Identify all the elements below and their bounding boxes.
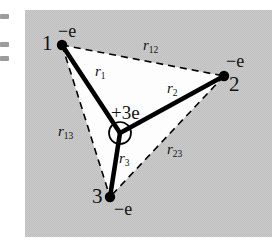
vertex-number-1: 1 <box>42 33 53 54</box>
charge-label-1: −e <box>58 22 76 40</box>
radius-label-r2: r2 <box>167 81 178 96</box>
charge-label-2: −e <box>226 52 244 70</box>
charge-label-3: −e <box>114 200 132 218</box>
electron-dot-1 <box>57 40 67 50</box>
electron-dot-2 <box>219 71 229 81</box>
separation-label-r13: r13 <box>58 124 73 139</box>
radius-label-r1: r1 <box>95 64 106 79</box>
nucleus-charge-label: +3e <box>111 103 140 122</box>
vertex-number-3: 3 <box>92 186 103 207</box>
radius-label-r3: r3 <box>119 151 130 166</box>
separation-label-r23: r23 <box>167 142 182 157</box>
vertex-number-2: 2 <box>229 74 240 95</box>
figure-root: 1 −e 2 −e 3 −e +3e r1 r2 r3 r12 r13 r23 <box>0 0 280 249</box>
separation-label-r12: r12 <box>143 38 158 53</box>
